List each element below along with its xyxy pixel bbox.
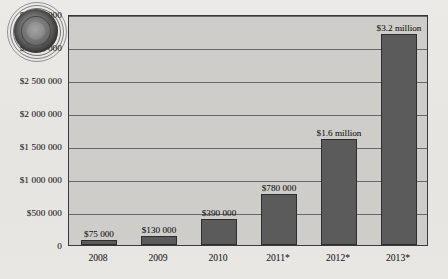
bar-value-label: $390 000 [202, 208, 236, 218]
gridline [69, 181, 427, 182]
y-axis-labels: $3 500 000 $3 000 000 $2 500 000 $2 000 … [0, 0, 68, 279]
bar-value-label: $130 000 [142, 225, 176, 235]
x-axis-tick-label: 2012* [326, 252, 350, 263]
bar-value-label: $3.2 million [377, 23, 422, 33]
bar-chart: $3 500 000 $3 000 000 $2 500 000 $2 000 … [0, 0, 448, 279]
y-axis-tick-label: $3 000 000 [20, 43, 62, 53]
x-axis-tick-label: 2008 [88, 252, 107, 263]
y-axis-tick-label: $1 000 000 [20, 175, 62, 185]
y-axis-tick-label: $500 000 [27, 208, 62, 218]
x-axis-tick-label: 2009 [148, 252, 167, 263]
bar [261, 194, 297, 245]
bar [201, 219, 237, 245]
x-axis-labels: 2008200920102011*2012*2013* [68, 252, 428, 272]
x-axis-tick-label: 2011* [266, 252, 290, 263]
gridline [69, 214, 427, 215]
plot-area: $75 000$130 000$390 000$780 000$1.6 mill… [68, 15, 428, 246]
gridline [69, 49, 427, 50]
y-axis-tick-label: $2 000 000 [20, 109, 62, 119]
gridline [69, 115, 427, 116]
bar-value-label: $1.6 million [317, 128, 362, 138]
bar [141, 236, 177, 245]
x-axis-tick-label: 2013* [386, 252, 410, 263]
y-axis-tick-label: $3 500 000 [20, 10, 62, 20]
bar [81, 240, 117, 245]
bar [321, 139, 357, 245]
gridline [69, 82, 427, 83]
y-axis-tick-label: $1 500 000 [20, 142, 62, 152]
bar [381, 34, 417, 245]
bar-value-label: $780 000 [262, 183, 296, 193]
gridline [69, 16, 427, 17]
y-axis-tick-label: $2 500 000 [20, 76, 62, 86]
x-axis-tick-label: 2010 [208, 252, 227, 263]
gridline [69, 148, 427, 149]
bar-value-label: $75 000 [84, 229, 114, 239]
y-axis-tick-label: 0 [57, 241, 62, 251]
